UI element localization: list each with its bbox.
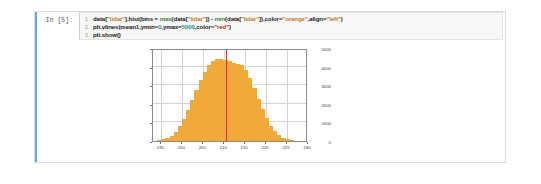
x-tick-mark [307, 142, 308, 144]
x-tick-mark [286, 142, 287, 144]
y-tick-mark [150, 68, 152, 69]
x-tick-mark [181, 142, 182, 144]
code-token: "red" [214, 23, 229, 30]
x-tick-label: 230 [297, 145, 317, 150]
y-tick-label: 2000 [280, 102, 334, 107]
x-tick-label: 195 [150, 145, 170, 150]
line-number: 2 [80, 25, 93, 33]
x-tick-label: 220 [255, 145, 275, 150]
mean-vline-annotation [226, 49, 227, 141]
code-token: (data[ [172, 15, 188, 22]
code-token: ) [229, 23, 231, 30]
x-tick-label: 205 [192, 145, 212, 150]
code-line-text: data["lidar"].hist(bins = max(data["lida… [93, 15, 343, 23]
line-number: 1 [80, 17, 93, 25]
code-line-text: plt.vlines(mean1,ymin=0,ymax=5000,color=… [93, 23, 231, 31]
x-tick-label: 210 [213, 145, 233, 150]
cell-input-row: In [5]: 1data["lidar"].hist(bins = max(d… [35, 12, 505, 41]
code-editor[interactable]: 1data["lidar"].hist(bins = max(data["lid… [79, 12, 503, 40]
y-tick-mark [150, 142, 152, 143]
matplotlib-figure: 500040003000200010000 195200205210215220… [94, 43, 334, 161]
code-line: 1data["lidar"].hist(bins = max(data["lid… [80, 15, 502, 23]
code-token: plt.show() [93, 31, 121, 38]
code-token: ]),color= [259, 15, 282, 22]
x-tick-mark [160, 142, 161, 144]
y-tick-mark [150, 123, 152, 124]
code-token: data[ [93, 15, 107, 22]
code-token: ,align= [308, 15, 327, 22]
y-tick-label: 3000 [280, 84, 334, 89]
y-tick-mark [150, 86, 152, 87]
notebook-cell[interactable]: In [5]: 1data["lidar"].hist(bins = max(d… [34, 11, 506, 163]
code-token: "orange" [282, 15, 307, 22]
code-token: ].hist(bins = [125, 15, 160, 22]
y-tick-label: 4000 [280, 65, 334, 70]
code-token: ,ymax= [161, 23, 181, 30]
code-token: (data[ [225, 15, 241, 22]
line-number: 3 [80, 33, 93, 41]
y-tick-mark [150, 105, 152, 106]
code-token: min [215, 15, 226, 22]
histogram-bars [153, 50, 306, 141]
y-tick-label: 5000 [280, 47, 334, 52]
y-tick-mark [150, 49, 152, 50]
code-token: "lidar" [188, 15, 206, 22]
x-tick-mark [265, 142, 266, 144]
code-token: ,color= [195, 23, 214, 30]
code-line: 3plt.show() [80, 31, 502, 39]
x-tick-mark [244, 142, 245, 144]
input-prompt-label: In [5]: [35, 12, 79, 24]
x-tick-label: 215 [234, 145, 254, 150]
code-token: ]) - [206, 15, 215, 22]
code-token: plt.vlines(mean1,ymin= [93, 23, 158, 30]
x-tick-mark [223, 142, 224, 144]
x-tick-label: 225 [276, 145, 296, 150]
cell-output-row: 500040003000200010000 195200205210215220… [35, 41, 505, 162]
code-token: max [160, 15, 172, 22]
code-token: 5000 [182, 23, 195, 30]
code-token: "lidar" [241, 15, 259, 22]
code-token: ) [341, 15, 343, 22]
x-tick-mark [202, 142, 203, 144]
code-token: "left" [326, 15, 340, 22]
plot-axes [152, 49, 307, 142]
cell-selection-accent-bar [35, 12, 37, 162]
code-token: "lidar" [107, 15, 125, 22]
x-tick-label: 200 [171, 145, 191, 150]
code-line-text: plt.show() [93, 31, 121, 39]
y-tick-label: 1000 [280, 121, 334, 126]
code-line: 2plt.vlines(mean1,ymin=0,ymax=5000,color… [80, 23, 502, 31]
